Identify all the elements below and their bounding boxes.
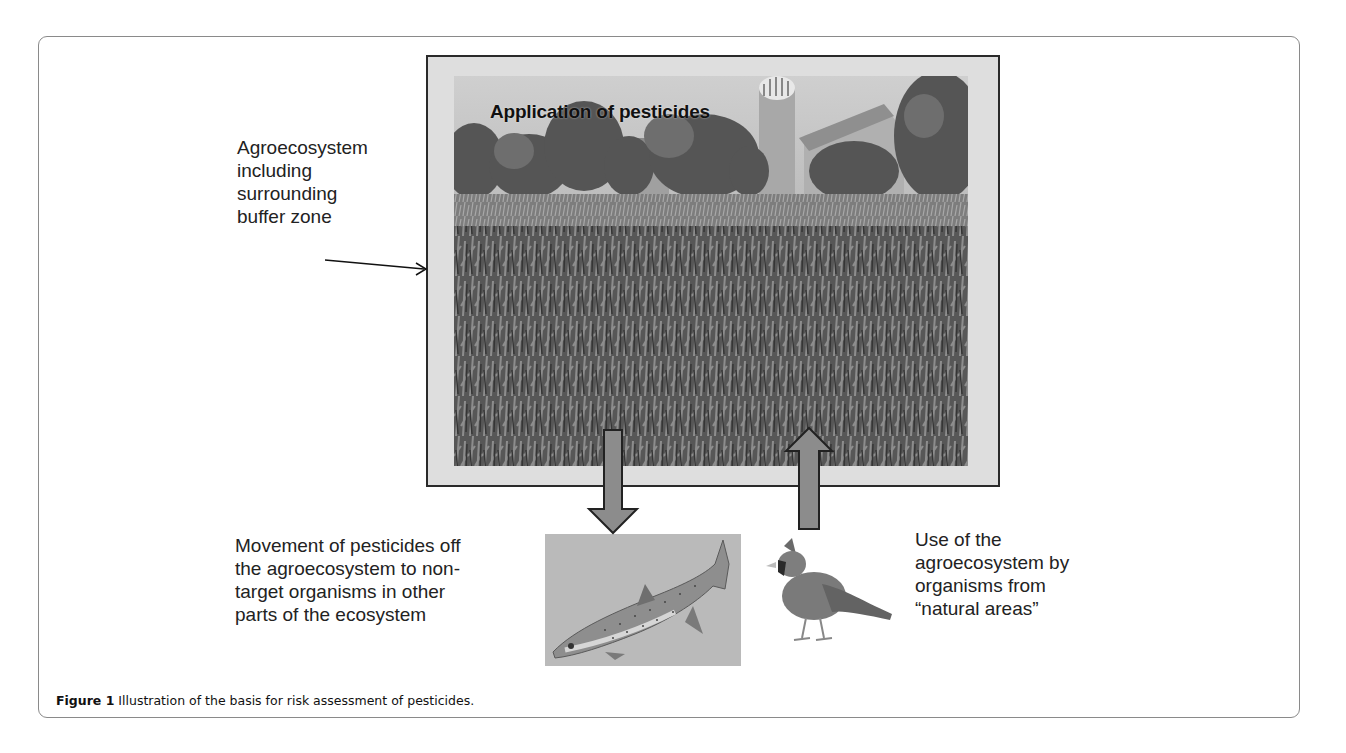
organism-use-arrow-icon: [786, 428, 832, 529]
buffer-zone-pointer-icon: [325, 260, 426, 275]
caption-label: Figure 1: [56, 693, 114, 708]
caption-text: Illustration of the basis for risk asses…: [114, 693, 474, 708]
arrows-overlay: [0, 0, 1346, 753]
figure-caption: Figure 1 Illustration of the basis for r…: [56, 693, 474, 708]
pesticide-movement-arrow-icon: [589, 430, 637, 533]
